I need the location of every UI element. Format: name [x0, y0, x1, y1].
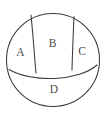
region-label-d: D	[50, 83, 58, 95]
diagram-container: A B C D	[0, 0, 110, 116]
partition-diagram: A B C D	[0, 0, 110, 116]
region-label-a: A	[16, 46, 25, 58]
region-label-c: C	[78, 45, 86, 57]
region-c-area[interactable]	[72, 17, 98, 71]
region-label-b: B	[49, 37, 57, 49]
